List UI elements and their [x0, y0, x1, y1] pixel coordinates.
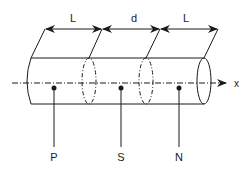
point-s: [119, 86, 124, 91]
extension-line: [204, 29, 218, 58]
point-p: [52, 86, 57, 91]
label-point-n: N: [175, 151, 183, 163]
extension-line: [31, 29, 45, 58]
label-left-length: L: [70, 12, 76, 24]
label-point-p: P: [50, 151, 57, 163]
label-right-length: L: [183, 12, 189, 24]
axis-label-x: x: [234, 78, 239, 89]
label-point-s: S: [117, 151, 124, 163]
section-boundary-1: [82, 58, 96, 104]
label-gap: d: [131, 12, 137, 24]
section-boundary-2: [139, 58, 153, 104]
extension-line: [146, 29, 160, 58]
extension-line: [89, 29, 102, 58]
cylinder-diagram: L d L x P S N: [0, 0, 249, 172]
cylinder-right-end: [197, 58, 211, 104]
cylinder-left-end: [27, 58, 31, 104]
point-n: [177, 86, 182, 91]
